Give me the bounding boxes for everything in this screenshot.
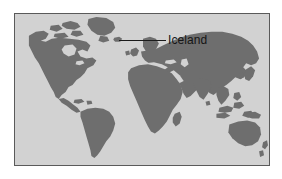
landmass-india xyxy=(194,78,212,100)
map-panel: Iceland xyxy=(14,13,270,166)
world-map-figure: Iceland xyxy=(0,0,282,179)
landmass-japan xyxy=(244,66,255,81)
landmass-new-zealand xyxy=(259,140,268,157)
landmass-australia xyxy=(228,121,261,147)
landmass-southeast-asia xyxy=(216,86,229,105)
landmass-sri-lanka xyxy=(206,101,211,106)
landmass-new-guinea xyxy=(246,112,261,119)
landmass-british-isles xyxy=(125,48,139,57)
landmass-iceland xyxy=(113,37,122,42)
landmass-madagascar xyxy=(173,112,182,127)
landmass-north-america xyxy=(29,31,96,99)
landmass-arctic-islands xyxy=(50,21,84,39)
landmass-greenland xyxy=(87,17,115,43)
landmass-caribbean xyxy=(74,99,93,105)
world-map-graphic xyxy=(15,14,269,165)
landmass-south-america xyxy=(80,108,115,158)
landmass-philippines xyxy=(233,92,241,101)
